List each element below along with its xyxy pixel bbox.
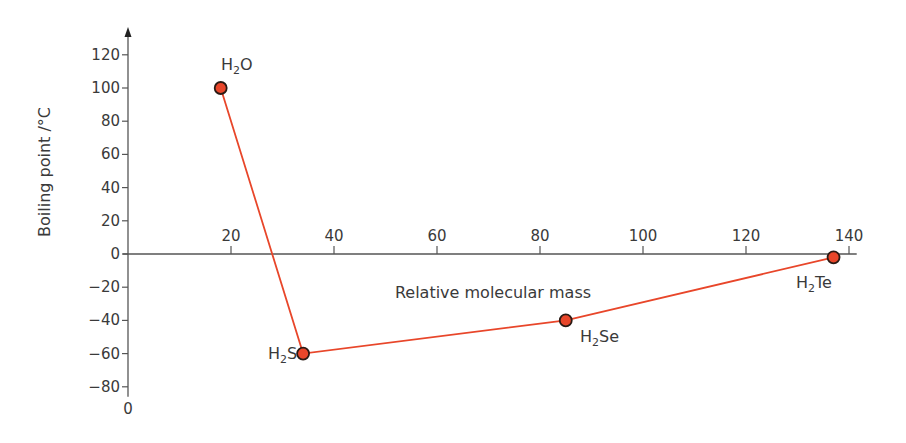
label-h2se: H2Se (580, 327, 619, 349)
y-tick-label: 60 (101, 145, 120, 163)
y-tick-label: −60 (88, 345, 120, 363)
data-point-h2se (560, 314, 572, 326)
y-tick-label: 80 (101, 112, 120, 130)
x-tick-label: 60 (427, 227, 446, 245)
y-tick-label: −40 (88, 311, 120, 329)
boiling-point-chart: 120100806040200−20−40−60−802040608010012… (0, 0, 906, 443)
x-tick-label: 40 (324, 227, 343, 245)
label-h2o: H2O (221, 55, 253, 77)
point-labels: H2O H2S H2Se H2Te (221, 55, 832, 366)
y-tick-label: −20 (88, 278, 120, 296)
y-tick-label: 120 (91, 46, 120, 64)
y-axis-arrow-icon (125, 27, 132, 37)
x-tick-label: 20 (221, 227, 240, 245)
y-tick-label: −80 (88, 378, 120, 396)
data-point-h2o (215, 82, 227, 94)
y-tick-label: 40 (101, 179, 120, 197)
label-h2s: H2S (268, 344, 297, 366)
x-axis-title: Relative molecular mass (395, 283, 591, 302)
x-tick-label: 100 (629, 227, 658, 245)
data-point-h2te (828, 251, 840, 263)
x-tick-label: 140 (835, 227, 864, 245)
x-tick-label: 80 (530, 227, 549, 245)
y-tick-label: 20 (101, 212, 120, 230)
series-line (221, 88, 834, 354)
data-point-h2s (297, 348, 309, 360)
data-series (215, 82, 840, 360)
y-tick-label: 0 (110, 245, 120, 263)
y-tick-label: 100 (91, 79, 120, 97)
x-tick-label: 120 (732, 227, 761, 245)
axes: 120100806040200−20−40−60−802040608010012… (88, 27, 863, 418)
origin-label: 0 (123, 400, 133, 418)
y-axis-title: Boiling point /°C (35, 107, 54, 237)
label-h2te: H2Te (796, 273, 832, 295)
